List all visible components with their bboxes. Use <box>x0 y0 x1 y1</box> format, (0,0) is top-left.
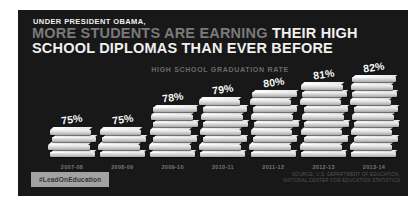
book-icon <box>203 137 247 142</box>
book-icon <box>351 130 392 135</box>
headline-line-1: MORE STUDENTS ARE EARNING THEIR HIGH <box>32 26 358 41</box>
book-icon <box>100 152 145 157</box>
headline-gray-text: MORE STUDENTS ARE EARNING <box>32 25 268 41</box>
book-icon <box>150 130 191 135</box>
book-icon <box>252 92 297 97</box>
book-stack: 81%2012-13 <box>300 68 348 170</box>
book-icon <box>253 137 297 142</box>
book-icon <box>50 152 95 157</box>
book-stack-chart: 75%2007-0875%2008-0978%2009-1079%2010-11… <box>48 61 398 171</box>
book-stack: 82%2013-14 <box>350 61 398 171</box>
book-icon <box>351 152 396 157</box>
year-label: 2007-08 <box>61 164 83 170</box>
book-stack: 75%2008-09 <box>98 113 146 170</box>
book-icon <box>250 100 291 105</box>
book-icon <box>300 145 342 150</box>
book-icon <box>199 100 240 105</box>
book-icon <box>102 137 146 142</box>
year-label: 2008-09 <box>111 164 133 170</box>
percent-label: 79% <box>211 82 234 97</box>
book-icon <box>150 152 195 157</box>
book-icon <box>301 152 346 157</box>
book-icon <box>253 107 297 112</box>
percent-label: 81% <box>312 67 335 82</box>
book-icon <box>50 130 91 135</box>
book-icon <box>304 137 348 142</box>
book-pile <box>200 97 245 157</box>
book-pile <box>50 127 95 157</box>
book-icon <box>304 122 349 127</box>
book-icon <box>100 130 141 135</box>
infographic-canvas: UNDER PRESIDENT OBAMA, MORE STUDENTS ARE… <box>0 0 420 206</box>
book-stack: 78%2009-10 <box>149 91 197 171</box>
year-label: 2010-11 <box>212 164 234 170</box>
headline-line-2: SCHOOL DIPLOMAS THAN EVER BEFORE <box>32 41 358 56</box>
year-label: 2013-14 <box>363 164 385 170</box>
percent-label: 80% <box>262 74 285 89</box>
book-icon <box>203 122 248 127</box>
book-icon <box>301 85 343 90</box>
book-icon <box>52 137 96 142</box>
headline: MORE STUDENTS ARE EARNING THEIR HIGH SCH… <box>32 26 358 56</box>
book-icon <box>149 145 191 150</box>
book-icon <box>249 145 291 150</box>
book-icon <box>254 122 299 127</box>
percent-label: 78% <box>161 89 184 104</box>
book-icon <box>151 115 193 120</box>
source-line-2: NATIONAL CENTER FOR EDUCATION STATISTICS <box>283 178 400 184</box>
book-icon <box>352 92 397 97</box>
book-pile <box>301 82 346 157</box>
book-icon <box>98 145 140 150</box>
book-icon <box>354 107 398 112</box>
book-icon <box>304 107 348 112</box>
book-icon <box>201 115 243 120</box>
book-pile <box>150 105 195 158</box>
book-icon <box>354 137 398 142</box>
book-stack: 80%2011-12 <box>249 76 297 171</box>
year-label: 2009-10 <box>162 164 184 170</box>
headline-white-text: THEIR HIGH <box>268 25 358 41</box>
book-icon <box>302 92 347 97</box>
book-icon <box>350 100 391 105</box>
book-icon <box>199 145 241 150</box>
book-stack: 75%2007-08 <box>48 113 96 170</box>
book-icon <box>300 100 341 105</box>
book-pile <box>251 90 296 158</box>
book-icon <box>48 145 90 150</box>
book-stack: 79%2010-11 <box>199 83 247 170</box>
book-icon <box>251 115 293 120</box>
book-icon <box>301 130 342 135</box>
book-icon <box>350 145 392 150</box>
source-attribution: SOURCE: U.S. DEPARTMENT OF EDUCATION, NA… <box>283 172 400 184</box>
book-icon <box>352 77 396 82</box>
book-icon <box>351 85 393 90</box>
book-icon <box>153 122 198 127</box>
book-icon <box>352 115 394 120</box>
book-icon <box>203 107 247 112</box>
book-icon <box>354 122 399 127</box>
percent-label: 82% <box>362 59 385 74</box>
book-icon <box>302 115 344 120</box>
percent-label: 75% <box>60 112 83 127</box>
book-icon <box>153 107 197 112</box>
book-icon <box>251 152 296 157</box>
book-icon <box>200 152 245 157</box>
book-icon <box>153 137 197 142</box>
book-icon <box>200 130 241 135</box>
year-label: 2011-12 <box>262 164 284 170</box>
book-pile <box>351 75 396 158</box>
year-label: 2012-13 <box>312 164 334 170</box>
infographic-panel: UNDER PRESIDENT OBAMA, MORE STUDENTS ARE… <box>18 10 408 196</box>
percent-label: 75% <box>111 112 134 127</box>
book-pile <box>100 127 145 157</box>
book-icon <box>251 130 292 135</box>
hashtag-badge: #LeadOnEducation <box>31 172 109 187</box>
